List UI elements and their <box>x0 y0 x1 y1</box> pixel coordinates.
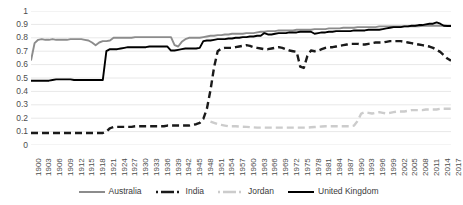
chart-legend: AustraliaIndiaJordanUnited Kingdom <box>0 183 457 199</box>
x-axis-tick-label: 1996 <box>379 158 387 176</box>
x-axis-tick-label: 1906 <box>56 158 64 176</box>
x-axis-tick-label: 1972 <box>293 158 301 176</box>
legend-item-united-kingdom[interactable]: United Kingdom <box>288 182 378 200</box>
x-axis-tick-label: 1939 <box>175 158 183 176</box>
x-axis-tick-label: 1999 <box>390 158 398 176</box>
x-axis-tick-label: 1918 <box>99 158 107 176</box>
y-axis-tick-label: 0.9 <box>16 20 28 29</box>
y-axis-tick-label: 0 <box>23 141 28 150</box>
plot-svg <box>31 11 451 145</box>
y-axis-tick-label: 0.6 <box>16 60 28 69</box>
x-axis-tick-label: 1921 <box>110 158 118 176</box>
legend-swatch-icon <box>156 182 182 200</box>
x-axis-tick-label: 1975 <box>304 158 312 176</box>
y-axis-tick-label: 0.8 <box>16 33 28 42</box>
x-axis-tick-label: 1927 <box>131 158 139 176</box>
y-axis-tick-label: 1 <box>23 7 28 16</box>
y-axis: 00.10.20.30.40.50.60.70.80.91 <box>0 0 30 150</box>
x-axis-tick-label: 2011 <box>433 159 441 176</box>
x-axis-tick-label: 1993 <box>368 158 376 176</box>
legend-label: India <box>186 187 204 196</box>
x-axis-tick-label: 2017 <box>455 158 463 176</box>
plot-area <box>31 11 451 145</box>
x-axis-tick-label: 1909 <box>67 158 75 176</box>
x-axis-tick-label: 1924 <box>121 158 129 176</box>
x-axis-tick-label: 1978 <box>315 158 323 176</box>
x-axis: 1900190319061909191219151918192119241927… <box>31 146 451 179</box>
x-axis-tick-label: 1942 <box>185 158 193 176</box>
legend-swatch-icon <box>79 182 105 200</box>
x-axis-tick-label: 1990 <box>358 158 366 176</box>
x-axis-tick-label: 1936 <box>164 158 172 176</box>
x-axis-tick-label: 1981 <box>325 158 333 176</box>
legend-label: Australia <box>109 187 142 196</box>
y-axis-tick-label: 0.3 <box>16 100 28 109</box>
legend-item-jordan[interactable]: Jordan <box>218 182 274 200</box>
y-axis-tick-label: 0.1 <box>16 127 28 136</box>
x-axis-tick-label: 1969 <box>282 158 290 176</box>
x-axis-tick-label: 1933 <box>153 158 161 176</box>
series-line-india <box>31 41 451 133</box>
x-axis-tick-label: 1912 <box>78 158 86 176</box>
legend-item-india[interactable]: India <box>156 182 204 200</box>
y-axis-tick-label: 0.5 <box>16 74 28 83</box>
x-axis-tick-label: 1951 <box>218 158 226 176</box>
legend-label: Jordan <box>248 187 274 196</box>
x-axis-tick-label: 2014 <box>444 158 452 176</box>
y-axis-tick-label: 0.4 <box>16 87 28 96</box>
x-axis-tick-label: 1984 <box>336 158 344 176</box>
series-line-australia <box>31 26 451 61</box>
x-axis-tick-label: 1930 <box>142 158 150 176</box>
x-axis-tick-label: 1900 <box>35 158 43 176</box>
x-axis-tick-label: 1966 <box>271 158 279 176</box>
legend-item-australia[interactable]: Australia <box>79 182 142 200</box>
x-axis-tick-label: 1903 <box>45 158 53 176</box>
legend-label: United Kingdom <box>318 187 378 196</box>
x-axis-tick-label: 2008 <box>422 158 430 176</box>
x-axis-tick-label: 1948 <box>207 158 215 176</box>
x-axis-tick-label: 1954 <box>228 158 236 176</box>
legend-swatch-icon <box>218 182 244 200</box>
x-axis-tick-label: 2002 <box>401 158 409 176</box>
x-axis-tick-label: 2005 <box>411 158 419 176</box>
y-axis-tick-label: 0.2 <box>16 114 28 123</box>
x-axis-tick-label: 1963 <box>261 158 269 176</box>
x-axis-tick-label: 1945 <box>196 158 204 176</box>
x-axis-tick-label: 1960 <box>250 158 258 176</box>
x-axis-tick-label: 1957 <box>239 158 247 176</box>
y-axis-tick-label: 0.7 <box>16 47 28 56</box>
x-axis-tick-label: 1987 <box>347 158 355 176</box>
x-axis-tick-label: 1915 <box>88 158 96 176</box>
legend-swatch-icon <box>288 182 314 200</box>
